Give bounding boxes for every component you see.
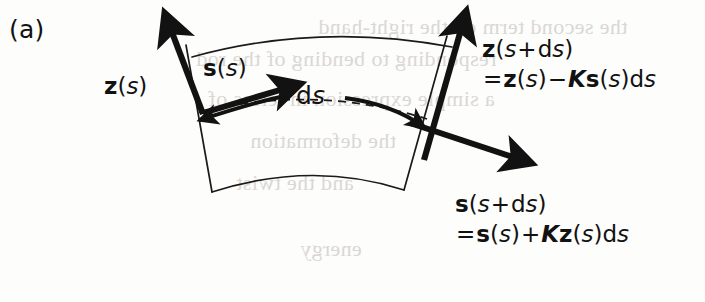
- label-s-at-s-arg: s: [226, 55, 238, 81]
- figure-container: the second term on the right-handrespond…: [0, 0, 705, 302]
- label-zpd2-minus: −: [547, 66, 568, 92]
- label-zpd-arg: s: [504, 36, 516, 62]
- label-spd2-vector2: z: [559, 221, 572, 247]
- label-zpd2-arg2: s: [608, 66, 620, 92]
- label-zpd-paren-close: ): [564, 36, 573, 62]
- vector-s-at-s: [203, 84, 300, 113]
- label-zpd-ds-s: s: [552, 36, 564, 62]
- label-zpd2-arg: s: [526, 66, 538, 92]
- label-z-at-s-paren-close: ): [138, 73, 147, 99]
- label-zpd2-trail-s: s: [644, 66, 656, 92]
- label-zpd-vector: z: [482, 36, 495, 62]
- vector-z-at-s: [165, 14, 203, 114]
- ribbon-bottom-arc: [212, 175, 404, 192]
- label-s-at-s: s(s): [203, 56, 247, 80]
- label-spd2-paren-open: (: [490, 221, 499, 247]
- label-ds-d: d: [296, 81, 312, 110]
- label-spd2-vector: s: [476, 221, 490, 247]
- label-spd2-trail-s: s: [617, 221, 629, 247]
- label-spd-ds-s: s: [526, 191, 538, 217]
- label-s-at-s-plus-ds-line2: =s(s)+Kz(s)ds: [455, 222, 629, 246]
- ribbon-top-arc: [192, 37, 452, 57]
- label-spd-paren-open: (: [469, 191, 478, 217]
- label-zpd2-vector2: s: [586, 66, 600, 92]
- label-z-at-s: z(s): [104, 74, 147, 98]
- label-spd-d: d: [511, 191, 526, 217]
- label-zpd2-constant: K: [568, 66, 586, 92]
- label-spd2-arg2: s: [581, 221, 593, 247]
- label-zpd2-vector: z: [503, 66, 516, 92]
- rod-segment-diagram: [0, 0, 705, 302]
- label-s-at-s-plus-ds-line1: s(s+ds): [455, 192, 547, 216]
- label-zpd-d: d: [538, 36, 553, 62]
- label-spd2-constant: K: [541, 221, 559, 247]
- label-z-at-s-plus-ds-line2: =z(s)−Ks(s)ds: [482, 67, 656, 91]
- label-spd2-arg: s: [499, 221, 511, 247]
- label-zpd2-paren-close: ): [538, 66, 547, 92]
- label-s-at-s-vector: s: [203, 55, 217, 81]
- label-zpd-plus: +: [516, 36, 537, 62]
- label-s-at-s-paren-open: (: [217, 55, 226, 81]
- label-spd-arg: s: [478, 191, 490, 217]
- label-spd-vector: s: [455, 191, 469, 217]
- label-s-at-s-paren-close: ): [238, 55, 247, 81]
- label-ds-s: s: [312, 81, 325, 110]
- label-z-at-s-arg: s: [126, 73, 138, 99]
- label-z-at-s-plus-ds-line1: z(s+ds): [482, 37, 573, 61]
- label-spd-plus: +: [490, 191, 511, 217]
- label-spd2-equals: =: [455, 221, 476, 247]
- label-zpd2-d: d: [629, 66, 644, 92]
- label-spd-paren-close: ): [538, 191, 547, 217]
- label-z-at-s-vector: z: [104, 73, 117, 99]
- label-spd2-d: d: [602, 221, 617, 247]
- label-zpd2-paren-open: (: [517, 66, 526, 92]
- label-zpd2-equals: =: [482, 66, 503, 92]
- label-ds: ds: [296, 83, 325, 109]
- label-spd2-plus: +: [520, 221, 541, 247]
- panel-label: (a): [9, 17, 44, 43]
- label-spd2-paren-close: ): [511, 221, 520, 247]
